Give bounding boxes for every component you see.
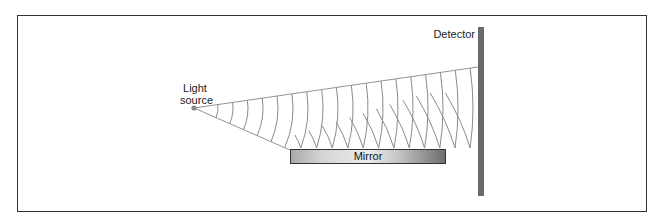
reflected-wavefront bbox=[363, 113, 379, 148]
light-source-label: Light source bbox=[180, 82, 210, 106]
reflected-wavefront bbox=[350, 118, 364, 149]
reflected-wavefront bbox=[323, 126, 333, 148]
wavefront-arc bbox=[301, 92, 308, 148]
wavefronts bbox=[216, 68, 473, 148]
wavefront-arc bbox=[216, 105, 218, 118]
detector-bar bbox=[478, 27, 484, 196]
detector-label: Detector bbox=[430, 28, 475, 40]
wavefront-arc bbox=[244, 100, 248, 129]
reflected-wavefront bbox=[390, 105, 410, 148]
wavefront-arc bbox=[455, 70, 458, 148]
mirror-label: Mirror bbox=[354, 150, 383, 162]
wavefront-arc bbox=[332, 87, 338, 148]
wavefront-arc bbox=[317, 90, 323, 148]
wave-diagram bbox=[0, 0, 663, 222]
light-source-dot bbox=[191, 105, 196, 110]
wavefront-arc bbox=[271, 96, 278, 142]
wavefront-arc bbox=[257, 98, 263, 136]
wavefront-arc bbox=[348, 85, 353, 148]
wavefront-arc bbox=[285, 94, 293, 148]
reflected-wavefront bbox=[309, 131, 317, 149]
wavefront-arc bbox=[440, 72, 443, 148]
reflected-wavefront bbox=[403, 100, 425, 148]
light-label-line1: Light bbox=[180, 82, 210, 94]
reflected-wavefront bbox=[376, 109, 394, 148]
light-label-line2: source bbox=[180, 94, 210, 106]
wavefront-arc bbox=[230, 102, 233, 123]
reflected-wavefront bbox=[295, 135, 301, 148]
mirror: Mirror bbox=[290, 149, 446, 164]
reflected-wavefront bbox=[336, 122, 348, 148]
wavefront-arc bbox=[470, 68, 473, 148]
